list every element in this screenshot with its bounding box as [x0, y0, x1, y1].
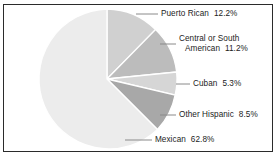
pie-label-other-hispanic-value: 8.5% — [239, 110, 258, 119]
pie-chart-figure: Puerto Rican12.2% Central or South Ameri… — [0, 0, 278, 163]
pie-label-central-or-south-american: Central or South American11.2% — [179, 34, 248, 53]
pie-label-central-or-south-american-name: Central or South — [179, 34, 239, 43]
pie-label-mexican: Mexican62.8% — [155, 135, 214, 145]
pie-label-mexican-name: Mexican — [155, 135, 186, 144]
pie-label-other-hispanic-name: Other Hispanic — [179, 110, 234, 119]
pie-label-cuban: Cuban5.3% — [193, 79, 241, 89]
pie-label-puerto-rican: Puerto Rican12.2% — [161, 9, 237, 19]
pie-label-central-or-south-american-line2: American — [185, 44, 220, 53]
pie-label-central-or-south-american-value: 11.2% — [225, 44, 248, 53]
pie-label-puerto-rican-name: Puerto Rican — [161, 9, 209, 18]
pie-label-mexican-value: 62.8% — [191, 135, 214, 144]
pie-label-cuban-value: 5.3% — [222, 79, 241, 88]
pie-label-cuban-name: Cuban — [193, 79, 217, 88]
pie-label-puerto-rican-value: 12.2% — [214, 9, 237, 18]
pie-label-central-or-south-american-name2: American11.2% — [185, 44, 248, 54]
pie-label-other-hispanic: Other Hispanic8.5% — [179, 110, 258, 120]
